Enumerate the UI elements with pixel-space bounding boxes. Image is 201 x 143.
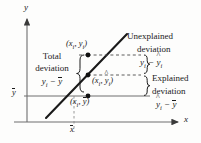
unexplained-deviation-caption-line2: deviation [137, 45, 171, 55]
point-label-observed: (xi, yi) [66, 39, 87, 48]
x-axis-label: x [184, 115, 188, 125]
point-observed [86, 53, 91, 58]
explained-deviation-formula: yi − y [156, 100, 176, 110]
unexplained-deviation-formula: yi − yi [140, 58, 162, 68]
y-axis-label: y [24, 3, 28, 13]
total-deviation-caption-line2: deviation [22, 64, 82, 74]
point-label-predicted: (xi, yi) [92, 76, 113, 85]
y-mean-tick-label: y [12, 88, 16, 97]
explained-deviation-caption-line1: Explained [152, 74, 189, 84]
unexplained-deviation-caption-line1: Unexplained [127, 32, 173, 42]
brace-explained [144, 76, 150, 95]
total-deviation-caption-line1: Total [26, 52, 78, 62]
regression-deviation-diagram: y x y x (xi, yi) (xi, yi) (xi, y) Total … [0, 0, 201, 143]
point-label-mean: (xi, y) [70, 97, 89, 106]
total-deviation-formula: yi − y [26, 77, 78, 87]
x-mean-tick-label: x [70, 125, 74, 134]
point-predicted [86, 73, 91, 78]
